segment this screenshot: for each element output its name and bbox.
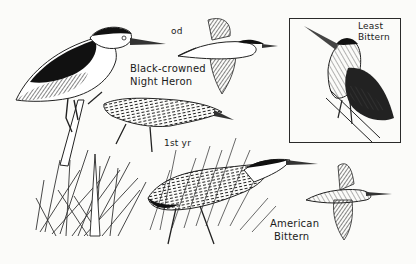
label-night-heron-line1: Black-crowned xyxy=(130,63,206,75)
label-least-bittern-line2: Bittern xyxy=(358,31,390,43)
label-american-bittern-line1: American xyxy=(270,218,319,230)
label-od: od xyxy=(171,25,183,37)
reeds-left xyxy=(36,150,146,236)
night-heron-perched xyxy=(16,27,166,166)
label-american-bittern-line2: Bittern xyxy=(274,231,309,243)
label-night-heron-line2: Night Heron xyxy=(130,76,192,88)
label-first-year: 1st yr xyxy=(164,137,191,149)
night-heron-flying xyxy=(178,19,278,94)
